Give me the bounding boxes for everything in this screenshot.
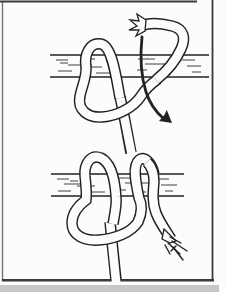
panel-step-2 [51,157,187,284]
panel-step-1 [50,14,209,156]
frayed-end-top [129,14,146,36]
illustration-page [0,0,226,292]
frayed-end-bottom [162,229,187,260]
rope-working-end-1 [141,24,184,80]
page-edge-strip [0,285,219,292]
knot-diagram [0,0,226,292]
rail-top [50,55,209,77]
